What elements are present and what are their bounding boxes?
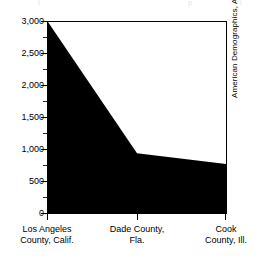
y-axis-label-0: 0	[4, 209, 44, 218]
y-axis-label-2500: 2,500	[4, 49, 44, 58]
x-tick-cook	[225, 214, 226, 220]
y-axis-label-500: 500	[4, 177, 44, 186]
x-axis-label-dade: Dade County, Fla.	[97, 224, 177, 246]
x-axis-label-dade-line1: Dade County,	[110, 224, 164, 234]
area-chart-figure: 3,000 2,500 2,000 1,500 1,000 500 0 Los …	[0, 0, 265, 262]
x-axis-label-los-angeles-line1: Los Angeles	[22, 224, 71, 234]
plot-area	[48, 22, 226, 214]
x-axis-label-cook-line2: County, Ill.	[186, 235, 265, 246]
x-axis-label-cook-line1: Cook	[215, 224, 236, 234]
area-series-path	[48, 22, 226, 214]
y-axis: 3,000 2,500 2,000 1,500 1,000 500 0	[0, 0, 44, 262]
x-axis-label-los-angeles: Los Angeles County, Calif.	[7, 224, 87, 246]
y-axis-label-1500: 1,500	[4, 113, 44, 122]
x-axis-label-dade-line2: Fla.	[97, 235, 177, 246]
x-axis-label-cook: Cook County, Ill.	[186, 224, 265, 246]
y-axis-label-1000: 1,000	[4, 145, 44, 154]
x-tick-dade	[137, 214, 138, 220]
x-tick-los-angeles	[47, 214, 48, 220]
y-axis-label-3000: 3,000	[4, 17, 44, 26]
source-credit: American Demographics, April 1993.	[231, 0, 239, 98]
x-axis-label-los-angeles-line2: County, Calif.	[7, 235, 87, 246]
plot-frame	[47, 21, 227, 214]
y-axis-label-2000: 2,000	[4, 81, 44, 90]
